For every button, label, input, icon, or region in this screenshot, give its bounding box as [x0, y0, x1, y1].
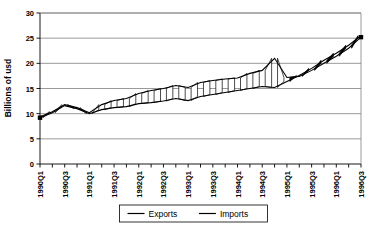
chart-legend: ExportsImports: [120, 205, 268, 222]
y-tick-label: 20: [26, 59, 34, 68]
data-point-marker: [359, 35, 363, 39]
series-exports-line: [40, 36, 361, 118]
x-tick-label: 1990Q1: [36, 171, 45, 198]
series-gap-band: [228, 78, 234, 93]
legend-label-imports: Imports: [220, 209, 248, 219]
series-gap-band: [216, 79, 222, 95]
series-gap-band: [179, 85, 185, 100]
x-tick-label: 1995Q3: [308, 171, 317, 198]
y-axis: [37, 13, 41, 164]
y-tick-label: 30: [26, 9, 34, 18]
x-tick-label: 1996Q3: [357, 171, 366, 198]
x-tick-label: 1992Q3: [159, 171, 168, 198]
chart-container: 051015202530 1990Q11990Q31991Q11991Q3199…: [0, 0, 381, 230]
x-tick-label: 1996Q1: [332, 171, 341, 198]
series-imports-line: [40, 37, 361, 117]
y-axis-tick-labels: 051015202530: [26, 9, 34, 169]
x-tick-label: 1992Q1: [135, 171, 144, 198]
x-axis: [40, 13, 361, 168]
exports-line: [40, 36, 361, 118]
x-tick-label: 1990Q3: [61, 171, 70, 198]
y-tick-label: 15: [26, 85, 34, 94]
series-gap-band: [253, 70, 259, 88]
imports-line: [40, 37, 361, 117]
series-gap-band: [203, 80, 209, 96]
y-tick-label: 25: [26, 34, 34, 43]
x-tick-label: 1995Q1: [283, 171, 292, 198]
x-tick-label: 1993Q3: [209, 171, 218, 198]
gridlines: [40, 13, 361, 139]
data-point-markers: [38, 35, 363, 120]
legend-label-exports: Exports: [149, 209, 178, 219]
x-tick-label: 1993Q1: [184, 171, 193, 198]
x-axis-tick-labels: 1990Q11990Q31991Q11991Q31992Q11992Q31993…: [36, 171, 366, 198]
x-tick-label: 1991Q3: [110, 171, 119, 198]
x-tick-label: 1991Q1: [85, 171, 94, 198]
series-band-area: [43, 36, 358, 118]
y-tick-label: 10: [26, 110, 34, 119]
x-tick-label: 1994Q3: [258, 171, 267, 198]
exports-imports-line-chart: 051015202530 1990Q11990Q31991Q11991Q3199…: [0, 0, 381, 230]
series-gap-band: [154, 89, 160, 103]
y-axis-title: Billions of usd: [3, 59, 13, 118]
y-tick-label: 5: [30, 135, 34, 144]
data-point-marker: [38, 115, 42, 119]
y-tick-label: 0: [30, 160, 34, 169]
x-tick-label: 1994Q1: [234, 171, 243, 198]
